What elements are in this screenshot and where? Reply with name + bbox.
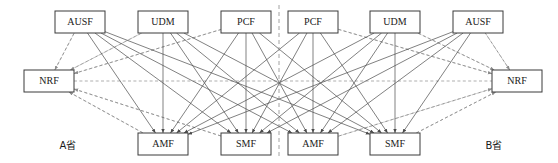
- nf-node-label: SMF: [385, 138, 405, 149]
- nf-node-label: UDM: [151, 16, 174, 27]
- nf-node-label: NRF: [39, 75, 59, 86]
- edge-a-ausf-to-a-amf: [87, 33, 155, 133]
- nf-node-b-nrf[interactable]: NRF: [492, 70, 542, 92]
- nf-node-label: AMF: [152, 138, 174, 149]
- edge-b-ausf-to-a-smf: [267, 33, 457, 133]
- nf-node-label: PCF: [237, 16, 255, 27]
- network-function-nodes: NRFAUSFUDMPCFAMFSMFPCFUDMAUSFNRFAMFSMF: [24, 11, 542, 155]
- nf-node-label: AUSF: [465, 16, 491, 27]
- nf-node-a-ausf[interactable]: AUSF: [55, 11, 105, 33]
- edge-a-ausf-to-b-amf: [101, 33, 292, 133]
- nf-node-a-pcf[interactable]: PCF: [221, 11, 271, 33]
- nf-node-a-nrf[interactable]: NRF: [24, 70, 74, 92]
- nf-node-a-smf[interactable]: SMF: [221, 133, 271, 155]
- nf-node-b-udm[interactable]: UDM: [370, 11, 420, 33]
- nf-node-b-ausf[interactable]: AUSF: [453, 11, 503, 33]
- nf-node-label: UDM: [383, 16, 406, 27]
- nf-node-a-udm[interactable]: UDM: [138, 11, 188, 33]
- edge-b-amf-to-b-nrf: [338, 89, 492, 137]
- nf-node-b-smf[interactable]: SMF: [370, 133, 420, 155]
- edge-b-ausf-to-b-amf: [328, 33, 463, 133]
- province-labels: A省B省: [60, 139, 503, 151]
- edge-a-smf-to-a-nrf: [74, 89, 221, 136]
- nf-node-b-pcf[interactable]: PCF: [288, 11, 338, 33]
- nf-node-a-amf[interactable]: AMF: [138, 133, 188, 155]
- nf-node-label: AMF: [302, 138, 324, 149]
- nf-node-label: NRF: [507, 75, 527, 86]
- nrf-registration-edges: [55, 29, 510, 136]
- nf-node-label: AUSF: [67, 16, 93, 27]
- topology-canvas: NRFAUSFUDMPCFAMFSMFPCFUDMAUSFNRFAMFSMF A…: [0, 0, 558, 163]
- nf-node-b-amf[interactable]: AMF: [288, 133, 338, 155]
- topology-diagram: NRFAUSFUDMPCFAMFSMFPCFUDMAUSFNRFAMFSMF A…: [0, 0, 558, 163]
- province-label-province-b: B省: [486, 139, 503, 151]
- province-label-province-a: A省: [60, 139, 77, 151]
- nf-node-label: PCF: [304, 16, 322, 27]
- edge-b-ausf-to-a-amf: [188, 32, 453, 135]
- edge-b-smf-to-b-nrf: [416, 92, 495, 133]
- edge-b-ausf-to-b-smf: [402, 33, 470, 133]
- nf-node-label: SMF: [236, 138, 256, 149]
